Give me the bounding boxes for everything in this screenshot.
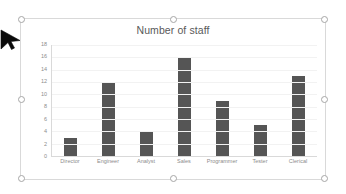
selection-handle-bottom-right[interactable] <box>321 175 328 182</box>
selection-handle-bottom-center[interactable] <box>170 175 177 182</box>
x-axis-tick-label: Programmer <box>203 159 241 173</box>
gridline <box>52 45 317 46</box>
selection-handle-bottom-left[interactable] <box>18 175 25 182</box>
selection-handle-top-left[interactable] <box>18 16 25 23</box>
y-axis-tick-label: 2 <box>44 142 47 148</box>
y-axis-tick-label: 4 <box>44 129 47 135</box>
gridline <box>52 82 317 83</box>
y-axis-tick-label: 6 <box>44 117 47 123</box>
gridline <box>52 107 317 108</box>
plot-area <box>51 45 317 157</box>
x-axis-tick-label: Tester <box>241 159 279 173</box>
selection-handle-middle-left[interactable] <box>18 96 25 103</box>
x-axis-tick-label: Director <box>51 159 89 173</box>
gridline <box>52 57 317 58</box>
x-axis-tick-label: Analyst <box>127 159 165 173</box>
gridline <box>52 119 317 120</box>
gridline <box>52 144 317 145</box>
bar-programmer[interactable] <box>216 101 229 157</box>
y-axis-tick-label: 8 <box>44 104 47 110</box>
bar-series <box>52 45 317 156</box>
bar-slot <box>128 45 166 156</box>
bar-tester[interactable] <box>254 125 267 156</box>
selection-handle-top-center[interactable] <box>170 16 177 23</box>
bar-slot <box>241 45 279 156</box>
selection-handle-top-right[interactable] <box>321 16 328 23</box>
chart-object[interactable]: Number of staff 024681012141618 Director… <box>20 18 326 180</box>
x-axis-tick-label: Engineer <box>89 159 127 173</box>
y-axis-tick-label: 18 <box>41 42 47 48</box>
gridline <box>52 70 317 71</box>
y-axis-tick-label: 14 <box>41 67 47 73</box>
bar-slot <box>203 45 241 156</box>
y-axis-tick-label: 12 <box>41 80 47 86</box>
y-axis-tick-label: 10 <box>41 92 47 98</box>
x-axis-tick-label: Clerical <box>279 159 317 173</box>
bar-director[interactable] <box>64 138 77 156</box>
bar-slot <box>279 45 317 156</box>
bar-slot <box>52 45 90 156</box>
gridline <box>52 131 317 132</box>
gridline <box>52 94 317 95</box>
plot-wrapper: 024681012141618 <box>35 45 317 157</box>
chart-title: Number of staff <box>21 24 325 36</box>
y-axis-tick-label: 16 <box>41 55 47 61</box>
x-axis-tick-label: Sales <box>165 159 203 173</box>
y-axis: 024681012141618 <box>35 45 49 157</box>
x-axis: DirectorEngineerAnalystSalesProgrammerTe… <box>51 159 317 173</box>
y-axis-tick-label: 0 <box>44 154 47 160</box>
bar-slot <box>90 45 128 156</box>
selection-handle-middle-right[interactable] <box>321 96 328 103</box>
bar-slot <box>166 45 204 156</box>
